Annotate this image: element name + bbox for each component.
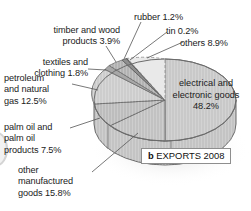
label-timber-and-wood-products: timber and wood products 3.9% [28,25,120,48]
label-electrical-and-electronic-goods: electrical and electronic goods 48.2% [168,78,244,113]
leader-line-timber [106,46,116,62]
label-others: others 8.9% [180,38,228,49]
figure-caption: b EXPORTS 2008 [141,148,231,164]
leader-line-others [147,42,183,58]
label-rubber: rubber 1.2% [134,12,183,23]
label-palm-oil-and-palm-oil-products: palm oil and palm oil products 7.5% [4,122,80,156]
caption-text: EXPORTS 2008 [156,150,224,161]
leader-line-tin [130,32,167,60]
leader-line-textiles [88,69,106,70]
label-petroleum-and-natural-gas: petroleum and natural gas 12.5% [4,73,74,107]
caption-letter: b [148,150,154,161]
label-tin: tin 0.2% [166,26,198,37]
pie-chart-figure: rubber 1.2% tin 0.2% others 8.9% timber … [0,0,251,211]
label-other-manufactured-goods: other manufactured goods 15.8% [18,165,104,199]
